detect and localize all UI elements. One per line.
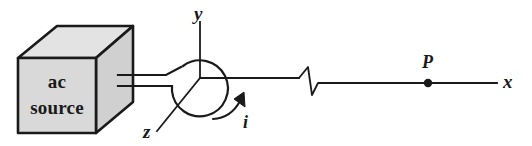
current-label: i xyxy=(243,113,248,131)
x-axis-label: x xyxy=(503,72,513,91)
ac-source-label-line1: ac xyxy=(18,72,96,91)
current-arrow-head xyxy=(234,92,245,107)
y-axis-label: y xyxy=(194,4,202,23)
current-direction-arrow-icon xyxy=(213,92,245,119)
point-p-marker-icon xyxy=(424,79,432,87)
break-zigzag-path xyxy=(299,67,324,95)
point-p-label: P xyxy=(422,53,433,71)
box-front-face xyxy=(18,58,96,133)
axis-break-icon xyxy=(299,67,324,95)
z-axis-label: z xyxy=(143,122,150,141)
ac-source-label-line2: source xyxy=(14,98,100,117)
physics-diagram-figure: ac source y x z i P xyxy=(0,0,532,146)
